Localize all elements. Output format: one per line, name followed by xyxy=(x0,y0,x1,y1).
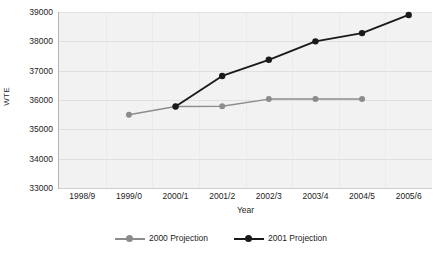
y-axis-tick-label: 39000 xyxy=(29,8,53,17)
data-point-marker xyxy=(266,96,272,102)
y-axis-tick-label: 36000 xyxy=(29,96,53,105)
y-axis-tick-label: 33000 xyxy=(29,184,53,193)
x-axis-tick-label: 1998/9 xyxy=(69,191,95,201)
legend-marker-icon xyxy=(115,234,145,243)
x-axis-tick-label: 1999/0 xyxy=(116,191,142,201)
data-point-marker xyxy=(359,30,365,36)
x-axis-tick-label: 2003/4 xyxy=(302,191,328,201)
series-line xyxy=(129,99,362,115)
x-axis-tick-labels: 1998/91999/02000/12001/22002/32003/42004… xyxy=(59,191,432,205)
x-axis-tick-label: 2004/5 xyxy=(349,191,375,201)
chart-legend: 2000 Projection2001 Projection xyxy=(0,234,442,243)
y-axis-tick-label: 34000 xyxy=(29,154,53,163)
data-point-marker xyxy=(266,57,272,63)
data-point-marker xyxy=(219,103,225,109)
x-axis-tick-label: 2000/1 xyxy=(163,191,189,201)
data-point-marker xyxy=(359,96,365,102)
x-axis-tick-label: 2001/2 xyxy=(209,191,235,201)
data-point-marker xyxy=(405,12,411,18)
series-layer xyxy=(59,12,432,188)
x-axis-tick-label: 2005/6 xyxy=(396,191,422,201)
x-axis-tick-label: 2002/3 xyxy=(256,191,282,201)
y-axis-tick-labels: 33000340003500036000370003800039000 xyxy=(0,0,56,200)
series-line xyxy=(176,15,409,107)
gridline xyxy=(59,188,432,189)
data-point-marker xyxy=(126,112,132,118)
data-point-marker xyxy=(312,38,318,44)
line-chart: WTE 33000340003500036000370003800039000 … xyxy=(0,0,442,264)
plot-area xyxy=(59,12,432,188)
legend-marker-icon xyxy=(234,234,264,243)
data-point-marker xyxy=(219,73,225,79)
data-point-marker xyxy=(312,96,318,102)
legend-label: 2001 Projection xyxy=(268,234,327,243)
legend-item[interactable]: 2001 Projection xyxy=(234,234,327,243)
data-point-marker xyxy=(172,103,178,109)
legend-label: 2000 Projection xyxy=(149,234,208,243)
y-axis-tick-label: 37000 xyxy=(29,66,53,75)
y-axis-tick-label: 38000 xyxy=(29,37,53,46)
legend-item[interactable]: 2000 Projection xyxy=(115,234,208,243)
y-axis-tick-label: 35000 xyxy=(29,125,53,134)
x-axis-title: Year xyxy=(59,205,432,215)
